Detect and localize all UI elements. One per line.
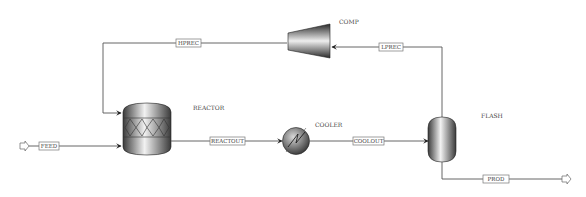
stream-label-reactout: REACTOUT [211,138,244,144]
stream-label-hprec: HPREC [178,40,199,46]
block-label-flash: FLASH [481,112,503,119]
reactor-icon [123,103,171,155]
stream-hprec[interactable]: HPREC [103,39,287,113]
stream-reactout[interactable]: REACTOUT [171,137,282,145]
heat-exchanger-icon [283,128,310,155]
stream-prod[interactable]: PROD [442,162,571,184]
stream-label-coolout: COOLOUT [354,138,384,144]
compressor-icon [288,24,330,58]
flash-drum-icon [428,117,456,162]
flash-block[interactable]: FLASH [428,112,503,162]
compressor-block[interactable]: COMP [288,18,359,58]
cooler-block[interactable]: COOLER [283,121,343,155]
stream-feed[interactable]: FEED [20,141,121,151]
stream-label-lprec: LPREC [381,44,401,50]
product-arrow-icon [562,174,571,184]
reactor-block[interactable]: REACTOR [123,103,225,155]
flowsheet-canvas: HPREC COMP LPREC FEED REACTOR REACTOUT [0,0,586,197]
block-label-cooler: COOLER [315,121,343,128]
stream-label-feed: FEED [41,143,58,149]
stream-coolout[interactable]: COOLOUT [310,137,428,145]
block-label-reactor: REACTOR [193,104,225,111]
feed-arrow-icon [20,141,29,151]
stream-lprec[interactable]: LPREC [332,43,442,117]
stream-label-prod: PROD [488,176,505,182]
block-label-comp: COMP [339,18,359,25]
